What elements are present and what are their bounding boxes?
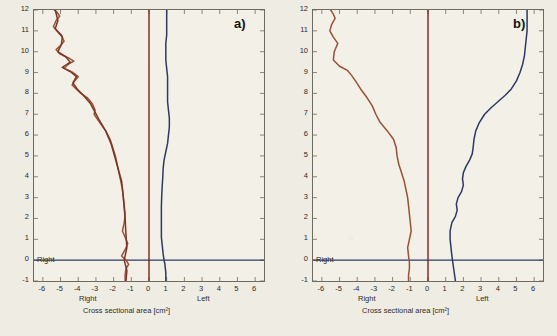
y-tick-label: 11 xyxy=(13,25,29,34)
xtag-left-a: Left xyxy=(197,294,210,303)
curves-a xyxy=(34,10,264,281)
x-tick-label: -2 xyxy=(105,284,121,293)
y-tick-label: 11 xyxy=(292,25,308,34)
x-tick-label: 6 xyxy=(525,284,541,293)
x-tick-label: 3 xyxy=(193,284,209,293)
y-tick-label: 0 xyxy=(292,254,308,263)
xtag-right-a: Right xyxy=(79,294,97,303)
panel-a: a) Right Cross sectional area [cm²] Righ… xyxy=(0,0,278,336)
plot-area-a xyxy=(33,9,265,282)
x-tick-label: -5 xyxy=(331,284,347,293)
plot-area-b xyxy=(312,9,544,282)
x-tick-label: -4 xyxy=(69,284,85,293)
y-tick-label: 1 xyxy=(13,233,29,242)
x-tick-label: 1 xyxy=(437,284,453,293)
curves-b xyxy=(313,10,543,281)
y-tick-label: 5 xyxy=(13,150,29,159)
x-tick-label: 6 xyxy=(246,284,262,293)
panel-label-b: b) xyxy=(513,16,525,31)
x-tick-label: 4 xyxy=(490,284,506,293)
x-tick-label: 0 xyxy=(419,284,435,293)
y-tick-label: 12 xyxy=(13,4,29,13)
y-tick-label: 4 xyxy=(292,171,308,180)
y-tick-label: 2 xyxy=(292,212,308,221)
x-tick-label: 2 xyxy=(175,284,191,293)
y-tick-label: -1 xyxy=(292,275,308,284)
panel-b: b) Right Cross sectional area [cm²] Righ… xyxy=(279,0,557,336)
x-tick-label: -3 xyxy=(87,284,103,293)
baseline-tag-b: Right xyxy=(316,255,334,264)
xtitle-a: Cross sectional area [cm²] xyxy=(83,306,170,315)
x-tick-label: 5 xyxy=(507,284,523,293)
x-tick-label: -1 xyxy=(122,284,138,293)
x-tick-label: 3 xyxy=(472,284,488,293)
x-tick-label: 5 xyxy=(228,284,244,293)
y-tick-label: 4 xyxy=(13,171,29,180)
x-tick-label: -3 xyxy=(366,284,382,293)
y-tick-label: 12 xyxy=(292,4,308,13)
xtag-right-b: Right xyxy=(358,294,376,303)
panel-label-a: a) xyxy=(234,16,246,31)
y-tick-label: 9 xyxy=(292,67,308,76)
y-tick-label: 3 xyxy=(13,192,29,201)
xtag-left-b: Left xyxy=(476,294,489,303)
xtitle-b: Cross sectional area [cm²] xyxy=(362,306,449,315)
x-tick-label: -4 xyxy=(348,284,364,293)
y-tick-label: 1 xyxy=(292,233,308,242)
y-tick-label: 6 xyxy=(13,129,29,138)
y-tick-label: 10 xyxy=(13,46,29,55)
x-tick-label: 4 xyxy=(211,284,227,293)
y-tick-label: 7 xyxy=(13,108,29,117)
figure-root: a) Right Cross sectional area [cm²] Righ… xyxy=(0,0,557,336)
x-tick-label: -2 xyxy=(384,284,400,293)
y-tick-label: 8 xyxy=(13,87,29,96)
y-tick-label: 2 xyxy=(13,212,29,221)
y-tick-label: -1 xyxy=(13,275,29,284)
y-tick-label: 8 xyxy=(292,87,308,96)
baseline-tag-a: Right xyxy=(37,255,55,264)
x-tick-label: -5 xyxy=(52,284,68,293)
y-tick-label: 7 xyxy=(292,108,308,117)
x-tick-label: 0 xyxy=(140,284,156,293)
x-tick-label: -1 xyxy=(401,284,417,293)
y-tick-label: 5 xyxy=(292,150,308,159)
x-tick-label: -6 xyxy=(34,284,50,293)
y-tick-label: 3 xyxy=(292,192,308,201)
y-tick-label: 0 xyxy=(13,254,29,263)
y-tick-label: 6 xyxy=(292,129,308,138)
y-tick-label: 9 xyxy=(13,67,29,76)
x-tick-label: -6 xyxy=(313,284,329,293)
y-tick-label: 10 xyxy=(292,46,308,55)
x-tick-label: 1 xyxy=(158,284,174,293)
x-tick-label: 2 xyxy=(454,284,470,293)
